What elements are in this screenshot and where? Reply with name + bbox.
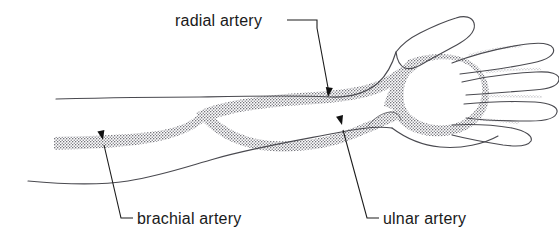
leader-line-brachial — [104, 145, 133, 218]
arm-artery-illustration: radial artery brachial artery ulnar arte… — [0, 0, 559, 241]
artery-palmar-arch — [392, 54, 489, 136]
diagram-canvas: radial artery brachial artery ulnar arte… — [0, 0, 559, 241]
outline-finger-middle — [462, 72, 559, 95]
artery-brachial-trunk — [54, 108, 214, 150]
arrowhead-ulnar — [336, 115, 345, 126]
artery-group — [54, 46, 541, 151]
leader-radial — [287, 20, 333, 98]
artery-digital-1 — [470, 46, 521, 55]
leader-line-ulnar — [343, 130, 379, 218]
artery-digital-3 — [489, 96, 541, 97]
label-radial-artery: radial artery — [175, 12, 262, 29]
label-brachial-artery: brachial artery — [137, 210, 241, 227]
artery-radial-branch — [206, 60, 418, 119]
label-ulnar-artery: ulnar artery — [383, 210, 466, 227]
leader-line-radial — [287, 20, 329, 93]
leader-group — [97, 20, 379, 218]
